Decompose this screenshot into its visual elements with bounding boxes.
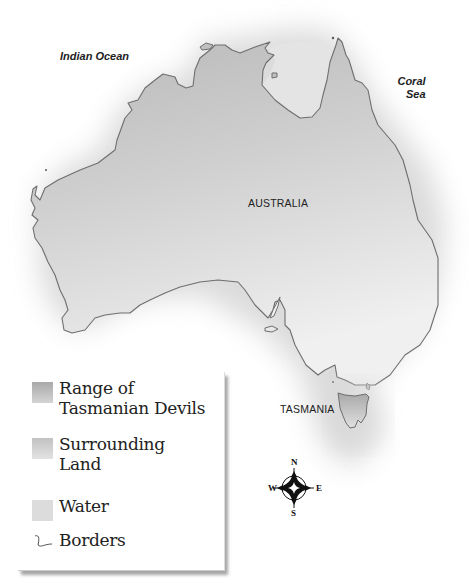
surrounding-land-swatch (32, 438, 53, 459)
water-swatch (32, 500, 53, 521)
compass-west: W (268, 483, 277, 493)
tasmania-label: TASMANIA (280, 403, 335, 415)
legend-label-surrounding-land: Surrounding Land (59, 434, 165, 474)
legend-item-water: Water (32, 496, 109, 521)
legend-label-surrounding-line1: Surrounding (59, 434, 165, 454)
compass-east: E (316, 483, 322, 493)
small-island (45, 169, 47, 171)
legend-label-range: Range of Tasmanian Devils (59, 378, 205, 418)
small-island (332, 37, 334, 39)
coral-sea-label: Coral Sea (400, 75, 426, 101)
border-line-icon (32, 532, 53, 553)
indian-ocean-label: Indian Ocean (60, 50, 129, 63)
groote-eylandt (272, 73, 277, 78)
legend-label-water-line1: Water (59, 496, 109, 516)
compass-north: N (291, 457, 298, 467)
australia-label: AUSTRALIA (248, 197, 308, 209)
legend-item-range: Range of Tasmanian Devils (32, 378, 205, 418)
legend-item-surrounding-land: Surrounding Land (32, 434, 165, 474)
legend-label-borders: Borders (59, 530, 126, 550)
compass-south: S (291, 508, 296, 518)
australia-mainland (31, 38, 438, 385)
range-swatch (32, 382, 53, 403)
legend-label-water: Water (59, 496, 109, 516)
legend-label-surrounding-line2: Land (59, 454, 165, 474)
map-legend: Range of Tasmanian Devils Surrounding La… (18, 372, 225, 571)
legend-label-range-line2: Tasmanian Devils (59, 398, 205, 418)
legend-label-range-line1: Range of (59, 378, 205, 398)
legend-label-borders-line1: Borders (59, 530, 126, 550)
compass-rose: N S W E (264, 458, 324, 518)
legend-item-borders: Borders (32, 530, 126, 553)
coral-sea-label-line1: Coral (397, 75, 426, 88)
coral-sea-label-line2: Sea (406, 88, 426, 101)
king-island (332, 381, 334, 383)
